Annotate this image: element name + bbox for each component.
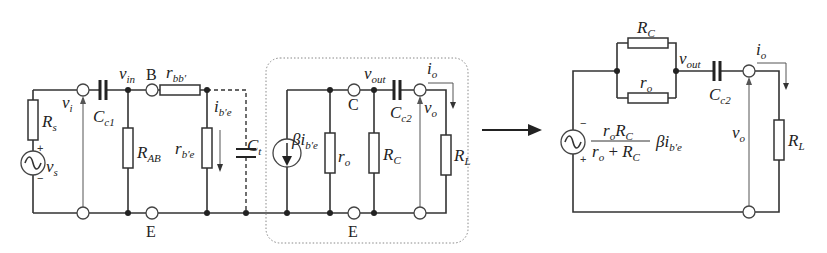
label-vs: vs <box>46 157 58 178</box>
label-b: B <box>146 66 157 83</box>
vo-arrowhead-icon <box>417 96 423 104</box>
terminal-vi-top <box>77 84 89 96</box>
label-rbb: rbb′ <box>166 63 187 84</box>
label-vi: vi <box>62 93 73 114</box>
label-beta-ibe: βib′e <box>291 130 318 151</box>
label-rab: RAB <box>136 143 161 164</box>
resistor-rc <box>369 133 379 173</box>
label-vin: vin <box>119 64 136 85</box>
thevenin-equation: roRC ro + RC βib′e <box>591 121 682 163</box>
circuit-diagram: + − Rs vs vi Cc1 vi <box>0 0 827 253</box>
io-right-arrowhead-icon <box>783 83 789 90</box>
resistor-rl <box>441 135 451 175</box>
label-c: C <box>348 96 359 113</box>
label-vo: vo <box>424 98 438 119</box>
equation-numerator: roRC <box>603 121 634 142</box>
node-ro-top <box>327 87 333 93</box>
terminal-vo-right-top <box>743 65 755 77</box>
label-rs: Rs <box>41 112 57 133</box>
arrow-right-icon <box>528 124 542 136</box>
io-right-arrow <box>757 63 786 88</box>
resistor-rbe <box>202 128 212 168</box>
label-e-left: E <box>146 223 156 240</box>
equation-factor: βib′e <box>655 132 682 153</box>
wire-top-out <box>287 90 446 213</box>
resistor-rc-right <box>628 38 668 48</box>
node-rc-bottom <box>371 210 377 216</box>
label-vo-right: vo <box>732 123 746 144</box>
node-vin <box>125 87 131 93</box>
label-e-right: E <box>348 223 358 240</box>
left-circuit: + − Rs vs vi Cc1 vi <box>21 63 287 240</box>
resistor-rl-right <box>774 120 784 160</box>
terminal-vo-top <box>414 84 426 96</box>
label-ct: Ct <box>247 136 262 157</box>
node-parallel-left <box>614 68 620 74</box>
label-rc-right: RC <box>636 18 655 39</box>
source-minus-label: − <box>580 117 586 129</box>
label-vout-right: vout <box>679 49 702 70</box>
node-bottom-rbe <box>204 210 210 216</box>
node-bottom-rab <box>125 210 131 216</box>
label-cc2-right: Cc2 <box>709 85 731 106</box>
terminal-e-left <box>146 207 158 219</box>
node-cs-bottom <box>284 210 290 216</box>
resistor-rab <box>123 128 133 168</box>
terminal-vo-right-bottom <box>743 206 755 218</box>
source-plus-label: + <box>580 153 586 165</box>
label-ibe: ib′e <box>214 97 232 118</box>
vs-plus-label: + <box>37 142 43 154</box>
label-rl: RL <box>453 146 471 167</box>
terminal-vi-bottom <box>77 207 89 219</box>
label-ro-right: ro <box>640 73 653 94</box>
resistor-ro-right <box>628 93 668 103</box>
node-vout <box>371 87 377 93</box>
label-rbe: rb′e <box>175 139 195 160</box>
output-block: βib′e ro C vout RC Cc2 io vo RL E <box>266 58 471 243</box>
ibe-arrowhead-icon <box>217 164 223 172</box>
terminal-vo-bottom <box>414 207 426 219</box>
node-vout-right <box>673 68 679 74</box>
label-cc2: Cc2 <box>390 103 412 124</box>
io-arrow <box>428 83 453 107</box>
resistor-rbb <box>160 85 200 95</box>
label-cc1: Cc1 <box>93 107 115 128</box>
vi-arrowhead-icon <box>80 96 86 104</box>
io-arrowhead-icon <box>450 102 456 109</box>
terminal-b <box>146 84 158 96</box>
resistor-rs <box>28 100 38 140</box>
label-rl-right: RL <box>787 131 805 152</box>
label-io: io <box>427 59 438 80</box>
terminal-c <box>348 84 360 96</box>
node-bprime <box>204 87 210 93</box>
transform-arrow <box>482 124 542 136</box>
vs-minus-label: − <box>37 172 43 184</box>
label-io-right: io <box>756 40 767 61</box>
node-bottom-ct <box>243 210 249 216</box>
node-ro-bottom <box>327 210 333 216</box>
vo-right-arrowhead-icon <box>746 77 752 85</box>
right-circuit: − + RC ro vout Cc2 io vo RL roRC ro + RC… <box>561 18 805 218</box>
label-vout: vout <box>364 64 387 85</box>
terminal-e-right <box>348 207 360 219</box>
label-rc: RC <box>382 145 401 166</box>
resistor-ro <box>325 133 335 173</box>
label-ro: ro <box>338 147 351 168</box>
equation-denominator: ro + RC <box>592 142 641 163</box>
